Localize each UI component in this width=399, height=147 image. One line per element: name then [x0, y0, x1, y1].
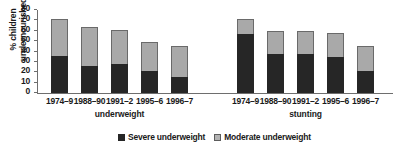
bar-stunting-5 — [357, 46, 374, 93]
bar-stunting-1 — [237, 19, 254, 93]
x-tick-label: 1996–7 — [352, 96, 379, 106]
legend-label: Severe underweight — [128, 133, 205, 142]
y-tick-label: 80 — [21, 4, 30, 13]
y-tick-label: 10 — [21, 77, 30, 86]
x-tick-label: 1995–6 — [322, 96, 349, 106]
bar-segment-severe — [111, 64, 128, 93]
bar-segment-severe — [51, 56, 68, 93]
x-tick-label: 1974–9 — [46, 96, 73, 106]
x-tick-label: 1991–2 — [292, 96, 319, 106]
bar-underweight-3 — [111, 30, 128, 93]
legend-label: Moderate underweight — [224, 133, 311, 142]
y-tick-label: 70 — [21, 14, 30, 23]
bar-segment-severe — [237, 34, 254, 93]
bar-segment-moderate — [51, 19, 68, 55]
x-tick-label: 1995–6 — [136, 96, 163, 106]
y-tick-label: 0 — [25, 87, 30, 96]
bar-segment-moderate — [237, 19, 254, 34]
bar-segment-moderate — [111, 30, 128, 65]
bar-segment-moderate — [171, 46, 188, 77]
bar-underweight-2 — [81, 27, 98, 93]
bar-underweight-4 — [141, 42, 158, 93]
y-tick-label: 40 — [21, 46, 30, 55]
bar-stunting-4 — [327, 33, 344, 93]
chart-legend: Severe underweightModerate underweight — [118, 133, 311, 142]
bar-segment-severe — [141, 71, 158, 93]
bar-segment-severe — [327, 57, 344, 93]
bar-segment-moderate — [327, 33, 344, 57]
x-axis-category-labels: 1974–91988–901991–21995–61996–71974–9198… — [37, 96, 393, 108]
group-label-underweight: underweight — [95, 109, 144, 119]
bar-series — [37, 10, 393, 94]
x-tick-label: 1988–90 — [260, 96, 292, 106]
y-tick-label: 50 — [21, 35, 30, 44]
bar-segment-severe — [357, 71, 374, 93]
x-tick-label: 1974–9 — [232, 96, 259, 106]
bar-segment-moderate — [297, 31, 314, 54]
bar-segment-severe — [297, 54, 314, 93]
bar-segment-severe — [171, 77, 188, 93]
y-tick-label: 60 — [21, 25, 30, 34]
bar-stunting-3 — [297, 31, 314, 93]
x-tick-label: 1991–2 — [106, 96, 133, 106]
bar-segment-moderate — [81, 27, 98, 66]
group-label-stunting: stunting — [289, 109, 322, 119]
group-labels: underweightstunting — [37, 109, 393, 121]
bar-segment-moderate — [357, 46, 374, 71]
x-tick-label: 1988–90 — [74, 96, 106, 106]
bar-underweight-5 — [171, 46, 188, 93]
bar-segment-moderate — [267, 31, 284, 54]
legend-item: Severe underweight — [118, 133, 205, 142]
bar-segment-moderate — [141, 42, 158, 71]
bar-segment-severe — [267, 54, 284, 93]
bar-underweight-1 — [51, 19, 68, 93]
bar-stunting-2 — [267, 31, 284, 93]
bar-segment-severe — [81, 66, 98, 93]
legend-swatch-icon — [118, 134, 125, 141]
legend-swatch-icon — [214, 134, 221, 141]
chart-figure: % children undernourished 01020304050607… — [0, 0, 399, 147]
plot-area: 01020304050607080 — [37, 10, 393, 94]
x-tick-label: 1996–7 — [166, 96, 193, 106]
y-tick-label: 20 — [21, 66, 30, 75]
legend-item: Moderate underweight — [214, 133, 311, 142]
y-tick-label: 30 — [21, 56, 30, 65]
